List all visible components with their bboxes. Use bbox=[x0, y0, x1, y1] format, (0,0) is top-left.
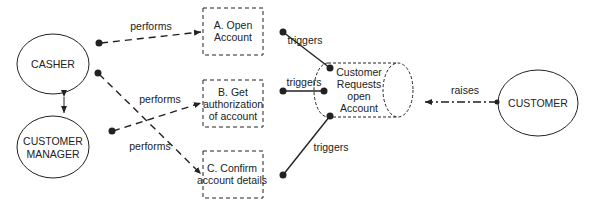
task-b-label-2: authorization bbox=[203, 98, 263, 110]
triggers-line-a: triggers bbox=[280, 29, 334, 72]
task-a-label-1: A. Open bbox=[214, 19, 253, 31]
customer-manager-label-2: MANAGER bbox=[26, 148, 80, 160]
casher-label: CASHER bbox=[31, 58, 75, 70]
task-b-label-3: of account bbox=[209, 110, 258, 122]
task-c-confirm-details[interactable]: C. Confirm account details bbox=[197, 151, 267, 198]
triggers-label-b: triggers bbox=[286, 76, 321, 88]
raises-arrow: raises bbox=[425, 84, 500, 105]
process-diagram: CASHER CUSTOMER MANAGER CUSTOMER A. Open… bbox=[0, 0, 601, 213]
customer-label: CUSTOMER bbox=[508, 97, 568, 109]
actor-customer-manager[interactable]: CUSTOMER MANAGER bbox=[17, 116, 89, 178]
customer-manager-label-1: CUSTOMER bbox=[23, 135, 83, 147]
task-b-get-authorization[interactable]: B. Get authorization of account bbox=[203, 80, 263, 127]
performs-arrow-a: performs bbox=[96, 20, 202, 47]
event-label-3: open bbox=[347, 90, 371, 102]
task-c-label-2: account details bbox=[197, 174, 267, 186]
actor-casher[interactable]: CASHER bbox=[17, 34, 89, 94]
triggers-label-a: triggers bbox=[287, 34, 322, 46]
event-label-2: Requests bbox=[337, 78, 381, 90]
triggers-line-c: triggers bbox=[280, 113, 349, 179]
event-label-1: Customer bbox=[336, 66, 382, 78]
actor-customer[interactable]: CUSTOMER bbox=[498, 70, 578, 136]
performs-label-a: performs bbox=[130, 20, 171, 32]
performs-label-b: performs bbox=[139, 93, 180, 105]
event-label-4: Account bbox=[340, 102, 378, 114]
performs-label-c: performs bbox=[129, 140, 170, 152]
raises-label: raises bbox=[451, 84, 479, 96]
task-a-label-2: Account bbox=[214, 31, 252, 43]
triggers-line-b: triggers bbox=[280, 76, 328, 95]
task-b-label-1: B. Get bbox=[218, 86, 248, 98]
task-a-open-account[interactable]: A. Open Account bbox=[203, 8, 263, 55]
triggers-label-c: triggers bbox=[313, 141, 348, 153]
performs-arrow-c: performs bbox=[95, 70, 202, 175]
task-c-label-1: C. Confirm bbox=[207, 162, 257, 174]
